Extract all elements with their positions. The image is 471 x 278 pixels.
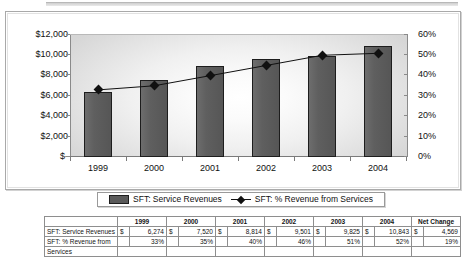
blank-2000	[167, 237, 179, 247]
x-tick-3	[238, 157, 239, 161]
blank-cont-2004	[363, 247, 412, 257]
window-top-strip	[0, 0, 471, 8]
value-percent-2001: 40%	[228, 237, 265, 247]
table-header-2000: 2000	[167, 217, 216, 227]
currency-2001: $	[216, 227, 228, 237]
chart-data-table: 1999 2000 2001 2002 2003 2004 Net Change…	[44, 216, 461, 257]
blank-cont-2003	[314, 247, 363, 257]
currency-2003: $	[314, 227, 326, 237]
blank-cont-2000	[167, 247, 216, 257]
table-row-label-percent-revenue: SFT: % Revenue from	[45, 237, 118, 247]
currency-2002: $	[265, 227, 277, 237]
legend-item-percent-revenue[interactable]: SFT: % Revenue from Services	[231, 195, 373, 204]
y-axis-label-2000: $2,000	[10, 132, 68, 141]
y2-axis-label-0: 0%	[418, 152, 431, 161]
bar-swatch-icon	[109, 195, 129, 204]
table-header-1999: 1999	[118, 217, 167, 227]
value-revenue-1999: 6,274	[130, 227, 167, 237]
chart-legend: SFT: Service Revenues SFT: % Revenue fro…	[97, 192, 385, 207]
x-tick-6	[406, 157, 407, 161]
value-percent-2002: 46%	[277, 237, 314, 247]
value-revenue-2000: 7,520	[179, 227, 216, 237]
y-axis-label-6000: $6,000	[10, 91, 68, 100]
blank-cont-1999	[118, 247, 167, 257]
blank-2001	[216, 237, 228, 247]
y-axis-label-zero: $-	[10, 152, 68, 161]
chart-container: $12,000 $10,000 $8,000 $6,000 $4,000 $2,…	[5, 11, 461, 190]
y2-axis-label-10: 10%	[418, 132, 436, 141]
value-percent-net-change: 19%	[424, 237, 461, 247]
y2-axis-label-40: 40%	[418, 70, 436, 79]
y-axis-label-8000: $8,000	[10, 70, 68, 79]
x-tick-0	[70, 157, 71, 161]
primary-y-axis: $12,000 $10,000 $8,000 $6,000 $4,000 $2,…	[6, 12, 68, 191]
table-row: SFT: Service Revenues $ 6,274 $ 7,520 $ …	[45, 227, 461, 237]
x-tick-4	[294, 157, 295, 161]
currency-2004: $	[363, 227, 375, 237]
blank-net-change	[412, 237, 424, 247]
blank-1999	[118, 237, 130, 247]
value-percent-2003: 51%	[326, 237, 363, 247]
line-diamond-icon	[231, 196, 251, 203]
table-header-blank	[45, 217, 118, 227]
table-row: Services	[45, 247, 461, 257]
y-axis-label-4000: $4,000	[10, 111, 68, 120]
blank-cont-net-change	[412, 247, 461, 257]
value-revenue-2002: 9,501	[277, 227, 314, 237]
legend-label-percent-revenue: SFT: % Revenue from Services	[255, 195, 373, 204]
y-axis-label-12000: $12,000	[10, 30, 68, 39]
y2-axis-label-60: 60%	[418, 30, 436, 39]
value-revenue-2003: 9,825	[326, 227, 363, 237]
secondary-y-axis: 60% 50% 40% 30% 20% 10% 0%	[410, 12, 460, 191]
x-tick-1	[126, 157, 127, 161]
x-axis-label-2001: 2001	[184, 164, 236, 173]
y2-axis-label-50: 50%	[418, 50, 436, 59]
table-header-2004: 2004	[363, 217, 412, 227]
value-revenue-2004: 10,843	[375, 227, 412, 237]
x-tick-2	[182, 157, 183, 161]
table-header-net-change: Net Change	[412, 217, 461, 227]
x-axis-label-2002: 2002	[240, 164, 292, 173]
blank-2004	[363, 237, 375, 247]
blank-2003	[314, 237, 326, 247]
table-row: SFT: % Revenue from 33% 35% 40% 46% 51% …	[45, 237, 461, 247]
y2-axis-label-30: 30%	[418, 91, 436, 100]
value-revenue-net-change: 4,569	[424, 227, 461, 237]
value-percent-2004: 52%	[375, 237, 412, 247]
table-header-2001: 2001	[216, 217, 265, 227]
x-axis-label-2003: 2003	[296, 164, 348, 173]
x-axis-label-1999: 1999	[72, 164, 124, 173]
y-axis-label-10000: $10,000	[10, 50, 68, 59]
currency-net-change: $	[412, 227, 424, 237]
blank-cont-2001	[216, 247, 265, 257]
value-percent-1999: 33%	[130, 237, 167, 247]
table-header-2002: 2002	[265, 217, 314, 227]
table-header-2003: 2003	[314, 217, 363, 227]
y2-axis-label-20: 20%	[418, 111, 436, 120]
x-axis-label-2004: 2004	[352, 164, 404, 173]
x-axis-label-2000: 2000	[128, 164, 180, 173]
blank-cont-2002	[265, 247, 314, 257]
window-divider	[46, 2, 458, 6]
percent-line-series	[70, 34, 408, 157]
x-tick-5	[350, 157, 351, 161]
table-row-label-service-revenues: SFT: Service Revenues	[45, 227, 118, 237]
currency-2000: $	[167, 227, 179, 237]
table-header-row: 1999 2000 2001 2002 2003 2004 Net Change	[45, 217, 461, 227]
blank-2002	[265, 237, 277, 247]
legend-label-service-revenues: SFT: Service Revenues	[133, 195, 222, 204]
table-row-label-percent-revenue-cont: Services	[45, 247, 118, 257]
value-revenue-2001: 8,814	[228, 227, 265, 237]
currency-1999: $	[118, 227, 130, 237]
value-percent-2000: 35%	[179, 237, 216, 247]
legend-item-service-revenues[interactable]: SFT: Service Revenues	[109, 195, 222, 204]
